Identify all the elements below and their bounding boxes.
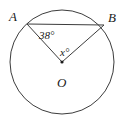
vertex-label-o: O	[57, 76, 66, 89]
angle-label-x-degrees: x°	[60, 47, 69, 58]
circle-geometry-figure: A B O 38° x°	[0, 0, 126, 119]
angle-label-38-degrees: 38°	[39, 30, 54, 41]
chord-ab	[27, 24, 104, 25]
center-point-dot	[60, 60, 63, 63]
vertex-label-a: A	[9, 10, 17, 23]
vertex-label-b: B	[108, 11, 116, 24]
